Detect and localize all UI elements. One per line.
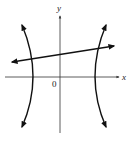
y-axis-label: y <box>56 3 61 13</box>
hyperbola-right-branch <box>95 25 106 127</box>
secant-line <box>12 46 114 62</box>
x-axis-label: x <box>121 72 126 82</box>
origin-label: 0 <box>52 79 57 89</box>
hyperbola-left-branch <box>22 25 33 127</box>
coordinate-graph: x y 0 <box>0 0 131 141</box>
